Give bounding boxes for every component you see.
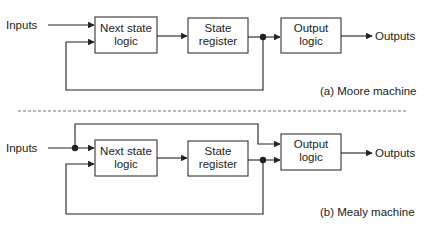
- mealy-next-state-label-2: logic: [114, 158, 138, 170]
- moore-next-state-label-2: logic: [114, 35, 138, 47]
- mealy-caption: (b) Mealy machine: [320, 206, 415, 218]
- mealy-state-register-label-2: register: [199, 158, 238, 170]
- moore-inputs-label: Inputs: [6, 19, 38, 31]
- mealy-state-register-label-1: State: [205, 145, 232, 157]
- mealy-machine: Inputs Next state logic State register O…: [6, 124, 416, 218]
- moore-output-logic-label-1: Output: [294, 22, 329, 34]
- moore-machine: Inputs Next state logic State register O…: [6, 17, 417, 97]
- mealy-inputs-label: Inputs: [6, 142, 38, 154]
- moore-output-logic-label-2: logic: [299, 35, 323, 47]
- mealy-output-logic-label-1: Output: [294, 138, 329, 150]
- moore-state-register-label-1: State: [205, 22, 232, 34]
- fsm-diagram: Inputs Next state logic State register O…: [0, 0, 429, 227]
- moore-state-register-label-2: register: [199, 35, 238, 47]
- moore-caption: (a) Moore machine: [320, 85, 417, 97]
- moore-outputs-label: Outputs: [375, 30, 416, 42]
- mealy-outputs-label: Outputs: [375, 147, 416, 159]
- mealy-output-logic-label-2: logic: [299, 151, 323, 163]
- mealy-next-state-label-1: Next state: [100, 145, 152, 157]
- moore-next-state-label-1: Next state: [100, 22, 152, 34]
